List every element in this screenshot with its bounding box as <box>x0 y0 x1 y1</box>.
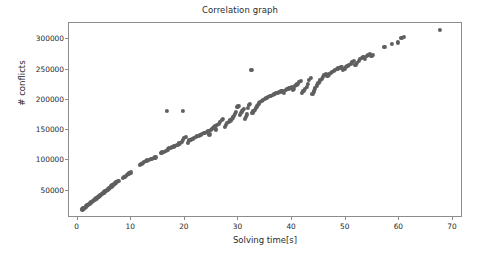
y-tick-mark <box>65 129 68 130</box>
chart-title: Correlation graph <box>0 5 480 15</box>
data-point <box>221 117 225 121</box>
x-tick-label: 60 <box>394 222 403 231</box>
x-tick-mark <box>452 217 453 220</box>
y-tick-label: 300000 <box>36 34 64 43</box>
y-tick-label: 250000 <box>36 64 64 73</box>
data-point <box>165 109 169 113</box>
x-tick-mark <box>291 217 292 220</box>
x-tick-label: 10 <box>126 222 135 231</box>
y-tick-label: 200000 <box>36 94 64 103</box>
data-point <box>236 104 240 108</box>
x-tick-mark <box>130 217 131 220</box>
x-tick-label: 40 <box>286 222 295 231</box>
data-point <box>129 170 133 174</box>
x-tick-label: 30 <box>233 222 242 231</box>
x-tick-mark <box>237 217 238 220</box>
x-tick-mark <box>398 217 399 220</box>
data-point <box>299 79 303 83</box>
data-point <box>309 76 313 80</box>
data-point <box>214 127 218 131</box>
x-tick-label: 20 <box>179 222 188 231</box>
data-point <box>116 179 120 183</box>
matplotlib-figure: Correlation graph # conflicts 5000010000… <box>0 0 480 257</box>
x-tick-label: 70 <box>447 222 456 231</box>
y-tick-label: 100000 <box>36 155 64 164</box>
y-tick-mark <box>65 99 68 100</box>
data-point <box>181 109 185 113</box>
data-point <box>153 155 157 159</box>
x-axis-label: Solving time[s] <box>68 235 462 245</box>
data-point <box>437 28 441 32</box>
y-tick-label: 50000 <box>40 185 64 194</box>
x-tick-label: 50 <box>340 222 349 231</box>
data-point <box>402 35 406 39</box>
y-tick-mark <box>65 69 68 70</box>
data-point <box>396 40 400 44</box>
y-tick-mark <box>65 38 68 39</box>
y-tick-label: 150000 <box>36 125 64 134</box>
data-point <box>306 82 310 86</box>
y-axis-tick-labels: 50000100000150000200000250000300000 <box>0 0 64 257</box>
data-point <box>382 45 386 49</box>
data-point <box>390 42 394 46</box>
y-tick-mark <box>65 159 68 160</box>
plot-area <box>68 22 462 217</box>
y-tick-mark <box>65 190 68 191</box>
x-tick-mark <box>77 217 78 220</box>
x-tick-label: 0 <box>74 222 79 231</box>
x-tick-mark <box>345 217 346 220</box>
data-point <box>249 68 253 72</box>
data-point <box>248 102 252 106</box>
data-point <box>371 53 375 57</box>
x-tick-mark <box>184 217 185 220</box>
data-point <box>207 132 211 136</box>
data-point <box>245 112 249 116</box>
